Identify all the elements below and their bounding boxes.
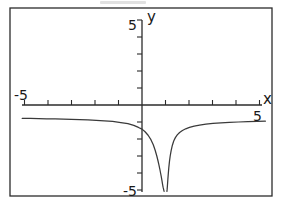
curve-left-branch xyxy=(22,118,164,191)
plot-frame xyxy=(10,8,272,196)
x-axis-label: x xyxy=(263,90,272,108)
scan-artifact xyxy=(100,1,146,4)
curve-right-branch xyxy=(167,121,265,191)
y-axis-min-tick-label: -5 xyxy=(123,183,137,199)
y-axis-label: y xyxy=(147,8,156,26)
coordinate-plane-svg: y x 5 -5 -5 5 xyxy=(0,0,281,205)
y-axis-max-tick-label: 5 xyxy=(128,17,137,33)
x-axis-max-tick-label: 5 xyxy=(253,108,262,124)
x-axis-min-tick-label: -5 xyxy=(14,87,28,103)
graph-figure: y x 5 -5 -5 5 xyxy=(0,0,281,205)
